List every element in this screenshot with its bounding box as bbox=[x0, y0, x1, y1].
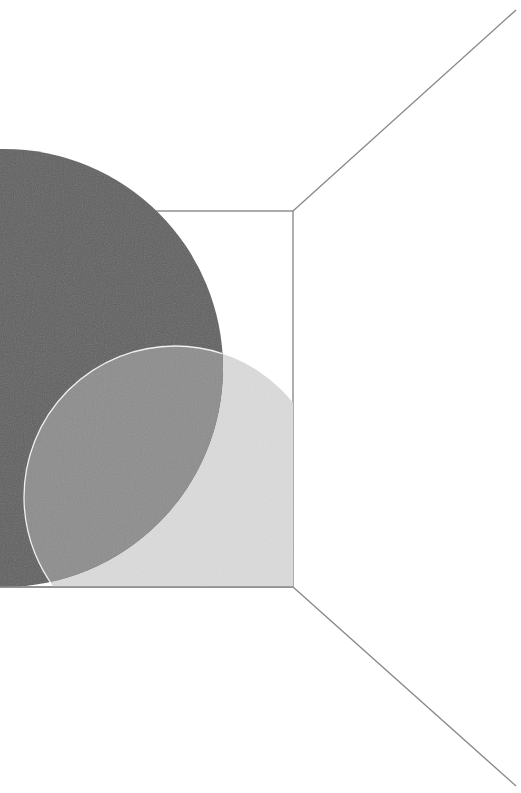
room-perspective-diagram bbox=[0, 0, 521, 793]
top-diagonal-line bbox=[293, 10, 516, 211]
bottom-diagonal-line bbox=[293, 587, 516, 786]
